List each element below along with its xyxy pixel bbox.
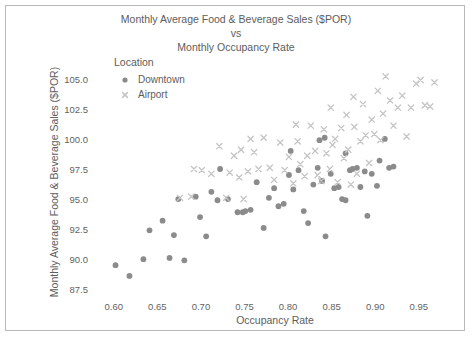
data-point-airport bbox=[209, 171, 214, 176]
data-point-airport bbox=[395, 105, 400, 110]
data-point-airport bbox=[241, 196, 246, 201]
data-point-airport bbox=[346, 147, 351, 152]
legend: Location Downtown Airport bbox=[112, 56, 185, 102]
x-tick-label: 0.80 bbox=[268, 301, 308, 312]
data-point-airport bbox=[427, 104, 432, 109]
data-point-airport bbox=[348, 182, 353, 187]
x-tick-label: 0.75 bbox=[225, 301, 265, 312]
legend-entry-airport: Airport bbox=[112, 87, 185, 102]
data-point-airport bbox=[339, 125, 344, 130]
legend-label-airport: Airport bbox=[138, 89, 167, 100]
data-point-downtown bbox=[374, 183, 380, 189]
data-point-airport bbox=[256, 166, 261, 171]
scatter-chart: Monthly Average Food & Beverage Sales ($… bbox=[0, 0, 472, 344]
data-point-airport bbox=[245, 169, 250, 174]
data-point-downtown bbox=[181, 257, 187, 263]
data-point-airport bbox=[341, 155, 346, 160]
data-point-downtown bbox=[354, 165, 360, 171]
data-point-airport bbox=[308, 123, 313, 128]
data-point-downtown bbox=[377, 158, 383, 164]
data-point-airport bbox=[227, 170, 232, 175]
data-point-downtown bbox=[281, 201, 287, 207]
x-tick-label: 0.90 bbox=[355, 301, 395, 312]
data-point-airport bbox=[261, 135, 266, 140]
data-point-airport bbox=[321, 127, 326, 132]
data-point-downtown bbox=[261, 225, 267, 231]
data-point-airport bbox=[271, 177, 276, 182]
data-point-airport bbox=[298, 161, 303, 166]
data-point-airport bbox=[404, 134, 409, 139]
data-point-airport bbox=[237, 175, 242, 180]
data-point-downtown bbox=[369, 171, 375, 177]
data-point-downtown bbox=[235, 209, 241, 215]
data-point-airport bbox=[387, 98, 392, 103]
x-tick-label: 0.65 bbox=[137, 301, 177, 312]
data-point-downtown bbox=[141, 256, 147, 262]
data-point-downtown bbox=[271, 185, 277, 191]
data-point-airport bbox=[191, 166, 196, 171]
data-point-airport bbox=[422, 103, 427, 108]
data-point-airport bbox=[380, 111, 385, 116]
data-point-downtown bbox=[203, 233, 209, 239]
legend-x-marker-icon bbox=[112, 87, 138, 102]
data-point-airport bbox=[312, 148, 317, 153]
data-point-downtown bbox=[160, 218, 166, 224]
y-tick-label: 102.5 bbox=[42, 103, 88, 114]
data-point-airport bbox=[375, 88, 380, 93]
data-point-downtown bbox=[323, 233, 329, 239]
data-point-airport bbox=[267, 165, 272, 170]
y-tick-label: 90.0 bbox=[42, 254, 88, 265]
data-point-downtown bbox=[197, 214, 203, 220]
data-point-airport bbox=[372, 131, 377, 136]
data-point-downtown bbox=[276, 203, 282, 209]
legend-circle-marker-icon bbox=[112, 72, 138, 87]
data-point-airport bbox=[217, 143, 222, 148]
data-point-downtown bbox=[215, 197, 221, 203]
data-point-downtown bbox=[127, 273, 133, 279]
data-point-airport bbox=[199, 167, 204, 172]
x-tick-label: 0.70 bbox=[181, 301, 221, 312]
data-point-airport bbox=[315, 172, 320, 177]
data-point-airport bbox=[383, 74, 388, 79]
data-point-airport bbox=[344, 112, 349, 117]
data-point-downtown bbox=[208, 189, 214, 195]
x-tick-label: 0.60 bbox=[94, 301, 134, 312]
series-airport bbox=[177, 74, 437, 202]
data-point-airport bbox=[335, 180, 340, 185]
x-tick-label: 0.95 bbox=[399, 301, 439, 312]
data-point-airport bbox=[293, 122, 298, 127]
chart-title-line-2: vs bbox=[0, 26, 472, 40]
data-point-airport bbox=[351, 94, 356, 99]
data-point-airport bbox=[418, 77, 423, 82]
y-tick-label: 87.5 bbox=[42, 284, 88, 295]
data-point-downtown bbox=[248, 207, 254, 213]
data-point-airport bbox=[358, 139, 363, 144]
legend-title: Location bbox=[112, 56, 185, 68]
data-point-airport bbox=[295, 139, 300, 144]
data-point-airport bbox=[354, 171, 359, 176]
data-point-downtown bbox=[296, 167, 302, 173]
data-point-airport bbox=[231, 153, 236, 158]
data-point-airport bbox=[360, 101, 365, 106]
data-point-downtown bbox=[171, 232, 177, 238]
data-point-airport bbox=[324, 151, 329, 156]
data-point-airport bbox=[248, 136, 253, 141]
data-point-downtown bbox=[167, 255, 173, 261]
data-point-airport bbox=[330, 142, 335, 147]
data-point-downtown bbox=[113, 262, 119, 268]
data-point-airport bbox=[305, 153, 310, 158]
y-tick-label: 95.0 bbox=[42, 194, 88, 205]
data-point-downtown bbox=[242, 208, 248, 214]
data-point-downtown bbox=[358, 184, 364, 190]
data-point-downtown bbox=[301, 208, 307, 214]
data-point-downtown bbox=[254, 179, 260, 185]
data-point-downtown bbox=[362, 168, 368, 174]
data-point-downtown bbox=[266, 195, 272, 201]
x-axis-tick-labels: 0.600.650.700.750.800.850.900.95 bbox=[92, 301, 458, 317]
chart-title: Monthly Average Food & Beverage Sales ($… bbox=[0, 12, 472, 54]
data-point-downtown bbox=[310, 182, 316, 188]
data-point-airport bbox=[432, 80, 437, 85]
data-point-airport bbox=[282, 167, 287, 172]
data-point-downtown bbox=[391, 164, 397, 170]
data-point-downtown bbox=[290, 187, 296, 193]
